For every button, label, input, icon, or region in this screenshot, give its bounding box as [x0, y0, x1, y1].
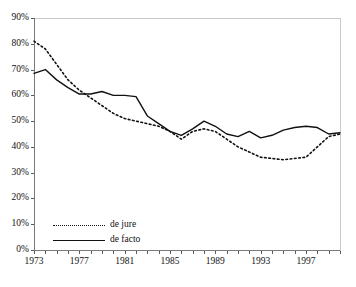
legend-label-de-jure: de jure [110, 220, 136, 230]
chart-container: 90%80%70%60%50%40%30%20%10%0% 1973197719… [0, 0, 356, 287]
series-line-de-facto [34, 70, 340, 138]
series-line-de-jure [34, 41, 340, 160]
legend-label-de-facto: de facto [110, 235, 140, 245]
data-series-layer [0, 0, 356, 287]
legend-swatch-de-jure [53, 225, 105, 226]
legend-swatch-de-facto [53, 240, 105, 241]
